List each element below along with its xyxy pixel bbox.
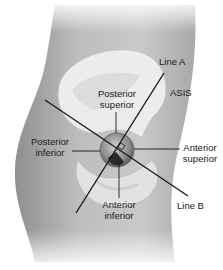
- label-line-a: Line A: [159, 56, 185, 67]
- label-posterior-superior-line1: Posterior: [96, 88, 138, 99]
- label-posterior-inferior-line2: inferior: [28, 147, 72, 158]
- label-anterior-superior-line1: Anterior: [178, 142, 222, 153]
- label-anterior-superior: Anterior superior: [178, 142, 222, 164]
- label-asis: ASIS: [170, 87, 192, 98]
- label-posterior-superior: Posterior superior: [96, 88, 138, 110]
- label-anterior-inferior-line2: inferior: [97, 210, 141, 221]
- label-posterior-inferior-line1: Posterior: [28, 136, 72, 147]
- label-anterior-inferior-line1: Anterior: [97, 199, 141, 210]
- label-line-b: Line B: [177, 200, 204, 211]
- label-anterior-inferior: Anterior inferior: [97, 199, 141, 221]
- label-posterior-inferior: Posterior inferior: [28, 136, 72, 158]
- label-posterior-superior-line2: superior: [96, 99, 138, 110]
- hip-diagram: [0, 0, 223, 270]
- label-anterior-superior-line2: superior: [178, 153, 222, 164]
